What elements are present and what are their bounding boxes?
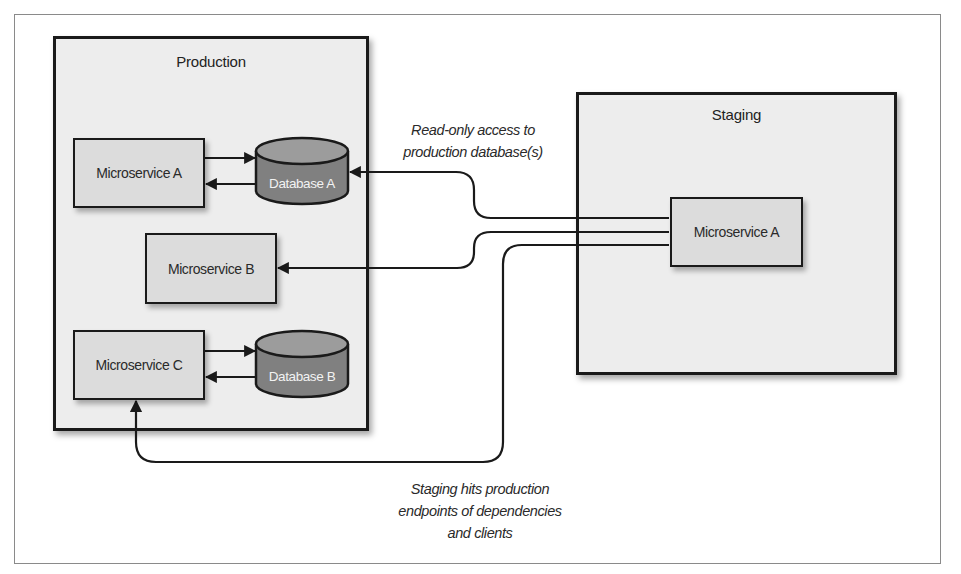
staging-hits-annotation: Staging hits production endpoints of dep… [370, 478, 590, 544]
staging-hits-annotation-line-1: Staging hits production [370, 478, 590, 500]
production-microservice-c: Microservice C [73, 330, 205, 400]
staging-hits-annotation-line-3: and clients [370, 522, 590, 544]
production-microservice-a-label: Microservice A [96, 165, 181, 181]
read-only-annotation: Read-only access to production database(… [378, 119, 568, 163]
production-microservice-b: Microservice B [145, 233, 277, 304]
staging-microservice-a: Microservice A [670, 197, 803, 267]
read-only-annotation-line-2: production database(s) [378, 141, 568, 163]
read-only-annotation-line-1: Read-only access to [378, 119, 568, 141]
staging-to-database-a-line [350, 172, 669, 218]
database-a-cylinder [256, 138, 348, 204]
database-b-cylinder [256, 331, 348, 397]
production-microservice-b-label: Microservice B [168, 261, 254, 277]
database-a-label: Database A [256, 176, 348, 191]
staging-to-microservice-b-line [278, 232, 669, 268]
staging-hits-annotation-line-2: endpoints of dependencies [370, 500, 590, 522]
production-microservice-c-label: Microservice C [96, 357, 183, 373]
production-microservice-a: Microservice A [73, 138, 205, 208]
database-b-label: Database B [256, 369, 348, 384]
staging-microservice-a-label: Microservice A [694, 224, 779, 240]
